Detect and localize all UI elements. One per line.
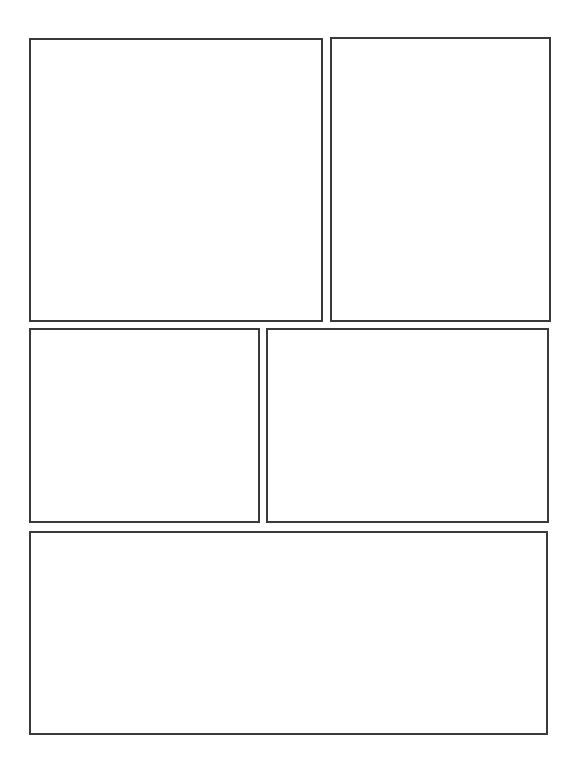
panel-5 [29,531,548,735]
panel-4 [266,328,549,523]
panel-1 [29,38,323,322]
panel-3 [29,328,260,523]
panel-2 [330,37,551,322]
